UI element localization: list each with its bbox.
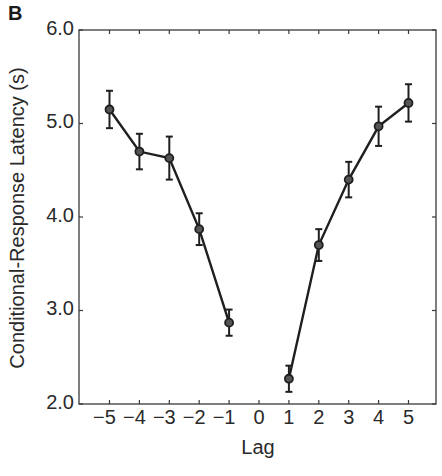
data-point-marker: [225, 319, 233, 327]
data-point-marker: [285, 375, 293, 383]
data-point-marker: [195, 225, 203, 233]
data-point-marker: [375, 122, 383, 130]
axis-ticks: [79, 30, 436, 404]
plot-frame: [79, 30, 436, 404]
series-line: [289, 103, 409, 379]
data-point-marker: [405, 99, 413, 107]
data-point-marker: [106, 105, 114, 113]
data-series: [106, 84, 413, 392]
data-point-marker: [165, 154, 173, 162]
data-point-marker: [135, 148, 143, 156]
data-point-marker: [315, 241, 323, 249]
plot-area: [0, 0, 442, 476]
data-point-marker: [345, 176, 353, 184]
